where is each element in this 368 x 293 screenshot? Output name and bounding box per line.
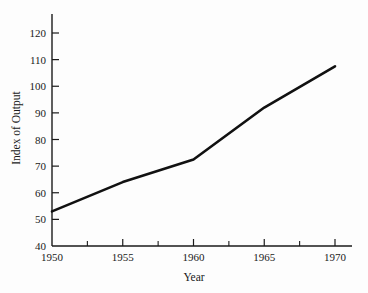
x-axis-title: Year [183, 271, 204, 283]
y-tick-label: 70 [18, 161, 46, 172]
line-chart: 405060708090100110120 195019551960196519… [0, 0, 368, 293]
y-tick-label: 120 [18, 28, 46, 39]
y-tick-label: 100 [18, 81, 46, 92]
axis-spines [52, 14, 352, 246]
y-tick-label: 80 [18, 134, 46, 145]
y-tick-label: 50 [18, 214, 46, 225]
x-tick-label: 1970 [324, 252, 346, 263]
x-tick-label: 1950 [41, 252, 63, 263]
x-tick-label: 1955 [112, 252, 134, 263]
plot-area [0, 0, 368, 293]
y-axis-ticks [52, 33, 59, 219]
x-tick-label: 1965 [253, 252, 275, 263]
y-tick-label: 40 [18, 241, 46, 252]
y-tick-label: 60 [18, 187, 46, 198]
x-axis-ticks [87, 239, 335, 246]
y-axis-title: Index of Output [10, 91, 22, 164]
x-tick-label: 1960 [183, 252, 205, 263]
y-tick-label: 110 [18, 54, 46, 65]
y-tick-label: 90 [18, 107, 46, 118]
data-series-line [52, 66, 335, 211]
